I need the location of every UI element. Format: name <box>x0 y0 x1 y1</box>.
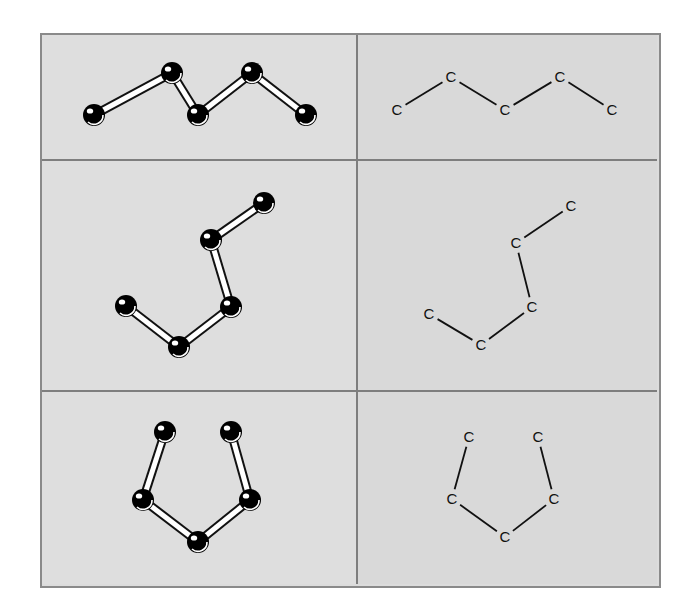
cell-ring-ball-stick <box>42 392 358 584</box>
conformation-grid <box>40 33 661 588</box>
cell-bent-skeletal <box>358 161 657 392</box>
cell-zigzag-skeletal <box>358 35 657 161</box>
cell-zigzag-ball-stick <box>42 35 358 161</box>
cell-bent-ball-stick <box>42 161 358 392</box>
cell-ring-skeletal <box>358 392 657 584</box>
